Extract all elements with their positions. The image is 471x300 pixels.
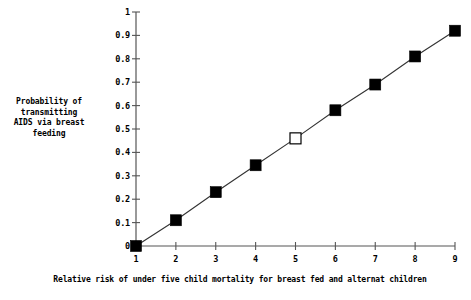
data-point: [170, 215, 181, 226]
data-point: [330, 105, 341, 116]
data-point: [370, 79, 381, 90]
x-axis-label: Relative risk of under five child mortal…: [38, 274, 442, 285]
plot-area: [0, 0, 471, 300]
data-point: [450, 25, 461, 36]
data-point: [131, 241, 142, 252]
axes: [132, 12, 455, 250]
data-point: [250, 160, 261, 171]
data-point: [210, 187, 221, 198]
data-markers: [131, 25, 461, 251]
chart-figure: Probability of transmitting AIDS via bre…: [0, 0, 471, 300]
data-point-open: [290, 133, 301, 144]
data-point: [410, 51, 421, 62]
